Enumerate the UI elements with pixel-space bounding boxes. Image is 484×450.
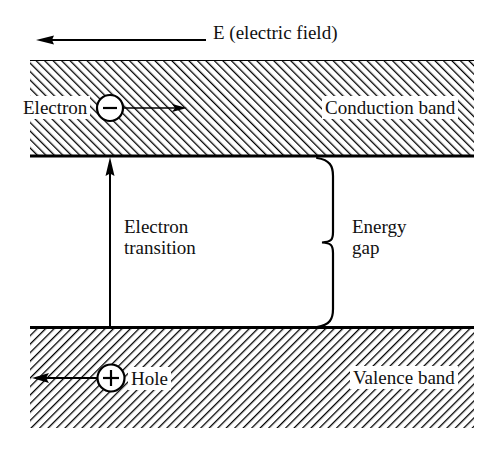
- electron-particle: [97, 95, 123, 121]
- hole-particle: [98, 365, 125, 392]
- energy-gap-label-line1: Energy: [352, 216, 407, 237]
- band-diagram-figure: E (electric field) Electron Conduction b…: [0, 0, 484, 450]
- electric-field-label: E (electric field): [213, 22, 337, 43]
- electron-label: Electron: [20, 96, 90, 119]
- energy-gap-brace: [317, 158, 333, 327]
- electron-transition-arrow: [106, 157, 115, 327]
- electron-transition-label-line1: Electron: [124, 216, 188, 237]
- energy-gap-label: Energygap: [352, 216, 407, 259]
- energy-gap-label-line2: gap: [352, 237, 379, 258]
- conduction-band-label: Conduction band: [322, 96, 458, 119]
- electron-transition-label-line2: transition: [124, 237, 196, 258]
- hole-label: Hole: [128, 367, 171, 390]
- valence-band-label: Valence band: [350, 366, 458, 389]
- electron-transition-label: Electrontransition: [124, 216, 196, 259]
- electric-field-arrow: [36, 36, 206, 45]
